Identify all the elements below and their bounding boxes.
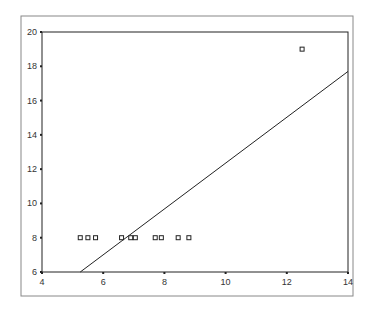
x-tick-mark: [102, 272, 104, 274]
y-tick-label: 10: [27, 198, 37, 208]
y-tick-label: 12: [27, 164, 37, 174]
x-tick-mark: [41, 272, 43, 274]
data-point-square-icon: [129, 236, 133, 240]
y-tick-label: 8: [32, 233, 37, 243]
x-tick-label: 10: [221, 277, 231, 287]
y-tick-mark: [40, 134, 42, 136]
x-tick-label: 14: [343, 277, 353, 287]
data-point-square-icon: [86, 236, 90, 240]
x-tick-label: 4: [39, 277, 44, 287]
x-tick-label: 8: [162, 277, 167, 287]
y-tick-label: 16: [27, 96, 37, 106]
data-point-square-icon: [300, 47, 304, 51]
x-tick-mark: [286, 272, 288, 274]
data-point-square-icon: [159, 236, 163, 240]
y-tick-mark: [40, 237, 42, 239]
data-point-square-icon: [176, 236, 180, 240]
data-point-square-icon: [153, 236, 157, 240]
y-tick-label: 14: [27, 130, 37, 140]
x-tick-label: 6: [101, 277, 106, 287]
x-axis-ticks: 468101214: [39, 272, 353, 287]
data-point-square-icon: [94, 236, 98, 240]
x-tick-mark: [347, 272, 349, 274]
x-tick-mark: [163, 272, 165, 274]
data-point-square-icon: [133, 236, 137, 240]
y-tick-label: 20: [27, 27, 37, 37]
data-point-square-icon: [187, 236, 191, 240]
y-axis-ticks: 68101214161820: [27, 27, 42, 277]
y-tick-mark: [40, 31, 42, 33]
x-tick-mark: [225, 272, 227, 274]
data-point-square-icon: [78, 236, 82, 240]
y-tick-mark: [40, 168, 42, 170]
y-tick-label: 18: [27, 61, 37, 71]
y-tick-mark: [40, 65, 42, 67]
x-tick-label: 12: [282, 277, 292, 287]
y-tick-mark: [40, 202, 42, 204]
y-tick-mark: [40, 100, 42, 102]
data-point-square-icon: [120, 236, 124, 240]
y-tick-label: 6: [32, 267, 37, 277]
scatter-chart: 68101214161820 468101214: [0, 0, 380, 314]
